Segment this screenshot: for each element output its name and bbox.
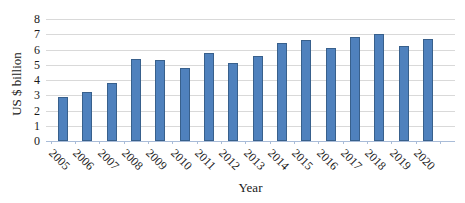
gridline-y4 <box>46 80 455 81</box>
x-axis-tick-mark <box>270 141 271 144</box>
bar-2018 <box>374 34 384 141</box>
plot-area <box>46 19 455 141</box>
x-axis-title: Year <box>46 180 455 196</box>
bar-2012 <box>228 63 238 141</box>
y-tick-label-8: 8 <box>0 12 40 26</box>
bar-2009 <box>155 60 165 141</box>
x-tick-label-2007: 2007 <box>94 146 122 174</box>
x-tick-label-2020: 2020 <box>410 146 438 174</box>
gridline-y6 <box>46 50 455 51</box>
bar-2008 <box>131 59 141 141</box>
x-axis-tick-mark <box>148 141 149 144</box>
x-tick-label-2010: 2010 <box>167 146 195 174</box>
x-tick-label-2005: 2005 <box>45 146 73 174</box>
x-axis-tick-mark <box>440 141 441 144</box>
x-axis-tick-mark <box>294 141 295 144</box>
bar-2017 <box>350 37 360 141</box>
y-tick-label-4: 4 <box>0 73 40 87</box>
bar-2006 <box>82 92 92 141</box>
x-tick-label-2019: 2019 <box>386 146 414 174</box>
x-tick-label-2006: 2006 <box>70 146 98 174</box>
x-axis-tick-mark <box>51 141 52 144</box>
x-axis-tick-mark <box>75 141 76 144</box>
bar-2005 <box>58 97 68 141</box>
x-tick-label-2018: 2018 <box>362 146 390 174</box>
y-tick-label-2: 2 <box>0 104 40 118</box>
x-axis-tick-mark <box>197 141 198 144</box>
x-tick-label-2009: 2009 <box>143 146 171 174</box>
x-tick-label-2015: 2015 <box>289 146 317 174</box>
x-axis-tick-mark <box>343 141 344 144</box>
y-tick-label-1: 1 <box>0 119 40 133</box>
bar-2007 <box>107 83 117 141</box>
bar-2010 <box>180 68 190 141</box>
x-axis-tick-mark <box>172 141 173 144</box>
bar-2019 <box>399 46 409 141</box>
x-axis-tick-mark <box>391 141 392 144</box>
bar-chart: US $ billion 012345678 20052006200720082… <box>0 0 465 203</box>
x-tick-label-2008: 2008 <box>118 146 146 174</box>
x-axis-tick-mark <box>124 141 125 144</box>
x-axis-tick-mark <box>99 141 100 144</box>
y-tick-label-6: 6 <box>0 43 40 57</box>
x-tick-label-2011: 2011 <box>191 146 218 173</box>
bar-2015 <box>301 40 311 141</box>
y-tick-label-7: 7 <box>0 27 40 41</box>
x-axis-tick-mark <box>318 141 319 144</box>
bar-2011 <box>204 53 214 141</box>
x-tick-label-2016: 2016 <box>313 146 341 174</box>
bar-2014 <box>277 43 287 141</box>
x-axis-tick-mark <box>367 141 368 144</box>
bar-2016 <box>326 48 336 141</box>
gridline-y7 <box>46 34 455 35</box>
x-tick-label-2017: 2017 <box>337 146 365 174</box>
x-tick-label-2014: 2014 <box>264 146 292 174</box>
x-tick-label-2012: 2012 <box>216 146 244 174</box>
y-tick-label-0: 0 <box>0 134 40 148</box>
x-axis-line <box>46 141 455 142</box>
y-tick-label-5: 5 <box>0 58 40 72</box>
x-tick-label-2013: 2013 <box>240 146 268 174</box>
gridline-y8 <box>46 19 455 20</box>
y-tick-label-3: 3 <box>0 88 40 102</box>
x-axis-tick-mark <box>245 141 246 144</box>
x-axis-tick-mark <box>416 141 417 144</box>
gridline-y5 <box>46 65 455 66</box>
bar-2013 <box>253 56 263 141</box>
bar-2020 <box>423 39 433 141</box>
x-axis-tick-mark <box>221 141 222 144</box>
